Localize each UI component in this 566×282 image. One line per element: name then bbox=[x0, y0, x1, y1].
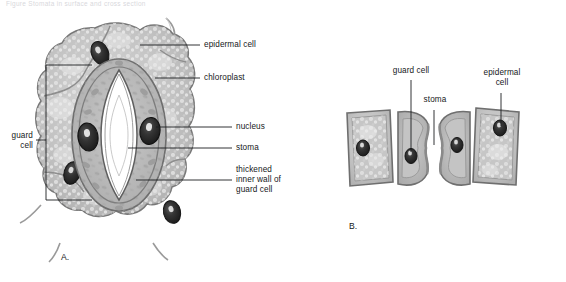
panel-a-artwork bbox=[20, 15, 232, 262]
label-thickened-inner-wall-a: thickened inner wall of guard cell bbox=[236, 165, 281, 196]
panel-letter-b: B. bbox=[349, 221, 357, 231]
label-guard-cell-b: guard cell bbox=[381, 66, 441, 76]
label-guard-cell-a: guard cell bbox=[0, 131, 33, 151]
label-epidermal-cell-a: epidermal cell bbox=[204, 40, 256, 50]
stomata-diagram-artwork bbox=[0, 0, 566, 282]
label-nucleus-a: nucleus bbox=[236, 122, 265, 132]
label-stoma-b: stoma bbox=[420, 95, 450, 105]
label-chloroplast-a: chloroplast bbox=[204, 73, 245, 83]
panel-letter-a: A. bbox=[61, 252, 69, 262]
figure-canvas: Figure Stomata in surface and cross sect… bbox=[0, 0, 566, 282]
label-stoma-a: stoma bbox=[236, 143, 259, 153]
label-epidermal-cell-b: epidermal cell bbox=[478, 68, 526, 88]
